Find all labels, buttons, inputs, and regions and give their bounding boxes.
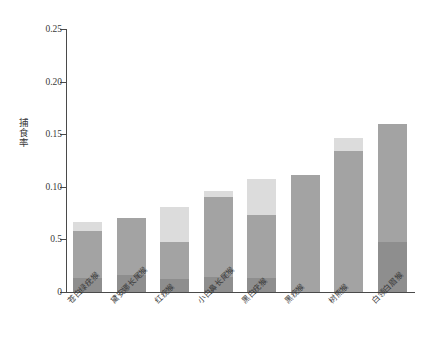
bar-segment <box>160 242 189 280</box>
plot-area: 0.250.200.150.100.50 <box>66 29 414 292</box>
bar-segment <box>334 138 363 151</box>
bar-segment <box>378 124 407 242</box>
bar[interactable] <box>247 179 276 292</box>
y-tick-label: 0.20 <box>45 77 62 87</box>
bar[interactable] <box>378 124 407 292</box>
x-axis-labels: 苍白绿疣猴黛安娜长尾猴红疣猴小白鼻长尾猴黑白疣猴黑疣猴树熊猴白领白眉猴 <box>0 293 430 364</box>
bar-chart: 捕食率 0.250.200.150.100.50 苍白绿疣猴黛安娜长尾猴红疣猴小… <box>0 0 430 364</box>
bar-segment <box>73 222 102 231</box>
bar-segment <box>247 179 276 215</box>
y-tick-label: 0.10 <box>45 182 62 192</box>
bar[interactable] <box>160 207 189 292</box>
bar-segment <box>334 151 363 292</box>
y-tick-label: 0.5 <box>50 234 62 244</box>
bar-segment <box>247 215 276 278</box>
bar-segment <box>73 231 102 278</box>
y-axis-title: 捕食率 <box>10 118 28 148</box>
bar[interactable] <box>291 175 320 292</box>
y-tick-label: 0.25 <box>45 24 62 34</box>
bar-segment <box>160 207 189 242</box>
bar[interactable] <box>334 138 363 292</box>
y-tick-label: 0.15 <box>45 129 62 139</box>
bar-segment <box>291 175 320 292</box>
